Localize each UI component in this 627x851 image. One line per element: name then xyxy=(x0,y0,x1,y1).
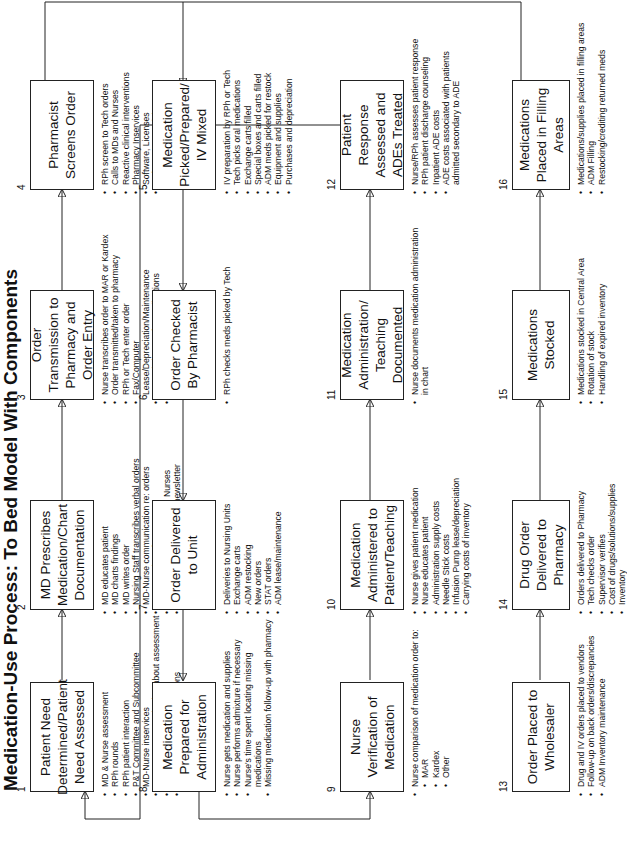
component-item: STAT orders xyxy=(263,429,273,614)
step-box: Medications Stocked xyxy=(512,290,570,400)
component-item: RPh rounds xyxy=(110,611,120,796)
step-component-list: Nurse/RPh assesses patient responseRPh p… xyxy=(410,19,461,194)
component-item: Special boxes and carts filled xyxy=(253,19,263,194)
component-item: Nurse/RPh assesses patient response xyxy=(410,19,420,194)
step-number: 11 xyxy=(326,390,337,400)
component-item: MD charts findings xyxy=(110,429,120,614)
component-item: Equipment and supplies xyxy=(273,19,283,194)
step-box: Order Transmission to Pharmacy and Order… xyxy=(30,290,94,400)
component-item: RPh patient discharge counseling xyxy=(420,19,430,194)
component-item: Infusion Pump lease/depreciation xyxy=(451,429,461,614)
component-item: Medications/supplies placed in filling a… xyxy=(576,19,586,194)
component-item: Nursing Staff transcribes verbal orders xyxy=(131,429,141,614)
component-item: Order transmitted/taken to pharmacy xyxy=(110,219,120,404)
component-item: Nurse's time spent locating missing medi… xyxy=(243,611,264,796)
component-item: Nurse transcribes order to MAR or Kardex xyxy=(100,219,110,404)
component-item: Administration supply costs xyxy=(431,429,441,614)
component-item: Rotation of stock xyxy=(586,219,596,404)
component-subitem: Other xyxy=(441,611,451,796)
step-box: Medication Picked/Prepared/ IV Mixed xyxy=(152,80,216,190)
step-label: Medications Stocked xyxy=(524,295,558,395)
step-number: 13 xyxy=(498,781,509,792)
component-item: MD writes order xyxy=(121,429,131,614)
step-label: Patient Response Assessed and ADEs Treat… xyxy=(338,85,406,185)
step-component-list: RPh checks meds picked by Tech xyxy=(222,219,232,404)
step-label: Drug Order Delivered to Pharmacy xyxy=(516,505,567,605)
component-item: ADM Filling xyxy=(586,19,596,194)
step-label: Order Transmission to Pharmacy and Order… xyxy=(28,295,96,395)
step-box: Patient Need Determined/Patient Need Ass… xyxy=(30,682,94,792)
step-number: 12 xyxy=(326,179,337,190)
component-item: ADM lease/maintenance xyxy=(273,429,283,614)
component-item: Missing medication follow-up with pharma… xyxy=(263,611,273,796)
step-box: Medication Administered to Patient/Teach… xyxy=(340,500,404,610)
component-item: Fax/Computer Lease/Depreciation/Maintena… xyxy=(131,219,152,404)
step-component-list: Deliveries to Nursing UnitsExchange cart… xyxy=(222,429,284,614)
step-number: 15 xyxy=(498,389,509,400)
step-box: Nurse Verification of Medication xyxy=(340,682,404,792)
component-subitem: Kardex xyxy=(431,611,441,796)
step-label: Medication Prepared for Administration xyxy=(159,687,210,787)
step-label: Order Delivered to Unit xyxy=(167,505,201,605)
component-item: Nurse gets medication and supplies xyxy=(222,611,232,796)
step-box: Medication Administration/ Teaching Docu… xyxy=(340,290,404,400)
step-box: Patient Response Assessed and ADEs Treat… xyxy=(340,80,404,190)
component-item: Reactive clinical interventions xyxy=(121,19,131,194)
step-component-list: IV preparation by RPh or TechTech picks … xyxy=(222,19,294,194)
step-box: Drug Order Delivered to Pharmacy xyxy=(512,500,570,610)
component-item: MD-Nurse inservices xyxy=(141,611,151,796)
step-component-list: Nurse documents medication administratio… xyxy=(410,219,431,404)
component-item: Nurse documents medication administratio… xyxy=(410,219,431,404)
component-item: ADM meds picked for restock xyxy=(263,19,273,194)
component-item: Nurse educates patient xyxy=(420,429,430,614)
step-component-list: Orders delivered to PharmacyTech checks … xyxy=(576,429,627,614)
component-item: MD educates patient xyxy=(100,429,110,614)
component-item: Follow-up on back orders/discrepancies xyxy=(586,611,596,796)
diagram-canvas: Medication-Use Process: To Bed Model Wit… xyxy=(0,0,627,851)
component-item: Inpatient ADE costs xyxy=(431,19,441,194)
component-item: Exchange carts xyxy=(232,429,242,614)
component-item: Software, Licenses xyxy=(141,19,151,194)
component-item: RPh patient interaction xyxy=(121,611,131,796)
step-number: 4 xyxy=(16,184,27,190)
step-component-list: Nurse gives patient medicationNurse educ… xyxy=(410,429,472,614)
step-number: 14 xyxy=(498,599,509,610)
component-item: Deliveries to Nursing Units xyxy=(222,429,232,614)
step-number: 16 xyxy=(498,179,509,190)
step-box: MD Prescribes Medication/Chart Documenta… xyxy=(30,500,94,610)
step-box: Order Delivered to Unit xyxy=(152,500,216,610)
step-label: Patient Need Determined/Patient Need Ass… xyxy=(37,679,88,795)
step-number: 7 xyxy=(138,604,149,610)
component-item: Supervisor verifies xyxy=(597,429,607,614)
component-item: Restocking/crediting returned meds xyxy=(597,19,607,194)
step-component-list: Medications stocked in Central AreaRotat… xyxy=(576,219,607,404)
component-item: Nurse performs admixture if necessary xyxy=(232,611,242,796)
step-box: Medications Placed in Filling Areas xyxy=(512,80,570,190)
component-item: Pharmacy Inservices xyxy=(131,19,141,194)
component-item: Calls to MDs and Nurses xyxy=(110,19,120,194)
component-item: P&T Committee and Subcommittee xyxy=(131,611,141,796)
component-item: Needle Stick costs xyxy=(441,429,451,614)
component-item: Nurse comparison of medication order to: xyxy=(410,611,420,796)
step-number: 10 xyxy=(326,599,337,610)
component-item: Exchange carts filled xyxy=(243,19,253,194)
component-item: RPh checks meds picked by Tech xyxy=(222,219,232,404)
component-item: Inventory xyxy=(617,429,627,614)
step-label: Medication Administered to Patient/Teach… xyxy=(347,505,398,605)
component-item: ADE costs associated with patients admit… xyxy=(441,19,462,194)
component-item: Cost of drugs/solutions/supplies xyxy=(607,429,617,614)
component-item: Tech checks order xyxy=(586,429,596,614)
component-item: ADM Inventory maintenance xyxy=(597,611,607,796)
arrow-8-to-9 xyxy=(199,792,370,819)
step-component-list: Nurse gets medication and suppliesNurse … xyxy=(222,611,273,796)
step-label: Medication Administration/ Teaching Docu… xyxy=(338,295,406,395)
component-item: RPh screen to Tech orders xyxy=(100,19,110,194)
step-label: Order Checked By Pharmacist xyxy=(167,295,201,395)
step-component-list: Nurse comparison of medication order to:… xyxy=(410,611,451,796)
step-component-list: Drug and IV orders placed to vendorsFoll… xyxy=(576,611,607,796)
component-item: Orders delivered to Pharmacy xyxy=(576,429,586,614)
step-box: Order Checked By Pharmacist xyxy=(152,290,216,400)
step-label: Nurse Verification of Medication xyxy=(347,687,398,787)
step-number: 8 xyxy=(138,786,149,792)
component-item: Medications stocked in Central Area xyxy=(576,219,586,404)
